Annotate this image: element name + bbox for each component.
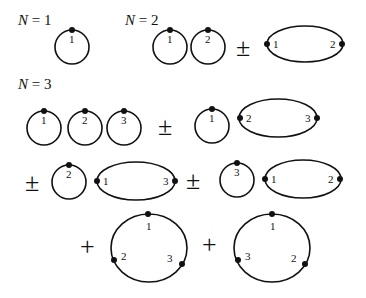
- double-loop-1-2: 1 2: [264, 26, 345, 62]
- single-loop-2: 2: [191, 27, 225, 64]
- svg-text:1: 1: [271, 173, 277, 185]
- svg-text:1: 1: [103, 175, 109, 187]
- single-loop-3: 3: [220, 160, 254, 197]
- svg-text:3: 3: [234, 166, 240, 178]
- section-n2: N = 2 1 2 ± 1 2: [124, 12, 345, 64]
- triple-loop-1-3-2: 1 3 2: [234, 211, 310, 282]
- svg-text:2: 2: [328, 173, 334, 185]
- svg-text:2: 2: [121, 250, 127, 262]
- double-loop-1-2: 1 2: [262, 160, 343, 198]
- svg-text:3: 3: [121, 114, 127, 126]
- plus-minus-operator: ±: [236, 33, 250, 62]
- svg-text:3: 3: [305, 112, 311, 124]
- plus-operator: +: [202, 230, 217, 259]
- svg-text:2: 2: [66, 168, 72, 180]
- section-title-n1: N = 1: [17, 12, 51, 28]
- section-n3: N = 3 1 2 3 ± 1 2 3: [17, 76, 343, 282]
- section-title-n3: N = 3: [17, 76, 51, 92]
- loop-expansion-diagram: N = 1 1 N = 2 1 2 ± 1 2 N = 3: [0, 0, 366, 298]
- svg-text:2: 2: [246, 112, 252, 124]
- double-loop-2-3: 2 3: [237, 99, 320, 137]
- svg-text:1: 1: [167, 33, 173, 45]
- plus-operator: +: [80, 232, 95, 261]
- plus-minus-operator: ±: [186, 166, 200, 195]
- single-loop-2: 2: [52, 162, 86, 199]
- svg-text:1: 1: [146, 220, 152, 232]
- triple-loop-1-2-3: 1 2 3: [111, 211, 187, 282]
- svg-text:2: 2: [330, 38, 336, 50]
- double-loop-1-3: 1 3: [94, 162, 178, 200]
- single-loop-1: 1: [27, 108, 61, 145]
- svg-text:2: 2: [291, 252, 297, 264]
- plus-minus-operator: ±: [25, 168, 39, 197]
- section-n1: N = 1 1: [17, 12, 89, 64]
- svg-text:1: 1: [209, 112, 215, 124]
- single-loop-1: 1: [153, 27, 187, 64]
- single-loop-3: 3: [107, 108, 141, 145]
- svg-text:3: 3: [167, 252, 173, 264]
- plus-minus-operator: ±: [158, 112, 172, 141]
- svg-text:1: 1: [69, 33, 75, 45]
- single-loop-1: 1: [195, 106, 229, 143]
- single-loop-2: 2: [68, 108, 102, 145]
- svg-text:2: 2: [205, 33, 211, 45]
- svg-text:2: 2: [82, 114, 88, 126]
- svg-text:1: 1: [273, 38, 279, 50]
- section-title-n2: N = 2: [124, 12, 158, 28]
- svg-text:1: 1: [41, 114, 47, 126]
- svg-text:1: 1: [270, 220, 276, 232]
- single-loop-1: 1: [55, 27, 89, 64]
- svg-text:3: 3: [245, 250, 251, 262]
- svg-text:3: 3: [163, 175, 169, 187]
